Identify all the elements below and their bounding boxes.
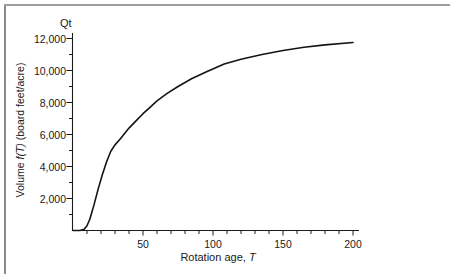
volume-growth-curve	[73, 43, 353, 231]
x-tick-label: 50	[128, 238, 158, 250]
x-tick-label: 150	[268, 238, 298, 250]
x-axis-title: Rotation age, T	[73, 251, 363, 263]
plot-area	[0, 0, 450, 274]
axes-lines	[73, 33, 360, 231]
x-axis-title-text: Rotation age,	[180, 251, 249, 263]
x-axis-title-variable: T	[249, 251, 256, 263]
y-axis-title-text-2: (board feet/acre)	[14, 63, 26, 144]
y-axis-title-text-1: Volume	[14, 159, 26, 197]
y-axis-title-function: f(T)	[14, 143, 26, 159]
x-tick-label: 200	[338, 238, 368, 250]
forestry-volume-figure: Qt 2,0004,0006,0008,00010,00012,00050100…	[0, 0, 450, 274]
y-axis-title: Volume f(T) (board feet/acre)	[14, 20, 28, 240]
x-tick-label: 100	[198, 238, 228, 250]
